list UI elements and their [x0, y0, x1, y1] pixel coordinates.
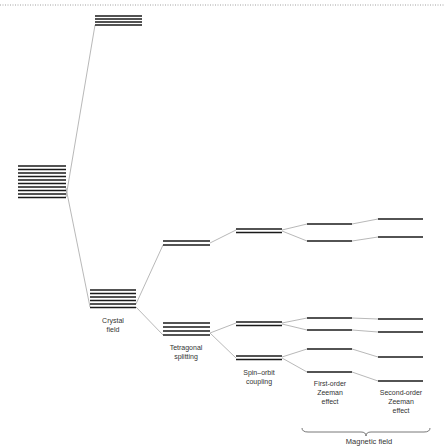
label-magnetic-field: Magnetic field [336, 437, 402, 446]
energy-level-diagram [0, 0, 445, 448]
magnetic-field-brace [302, 428, 430, 436]
level-group-second-order [378, 219, 423, 381]
level-group-tetragonal-upper [163, 241, 210, 245]
label-second-order-zeeman: Second-order Zeeman effect [370, 388, 432, 415]
connector-line [282, 231, 307, 241]
label-crystal-field: Crystal field [88, 316, 138, 334]
connector-line [282, 318, 307, 323]
energy-levels [18, 16, 423, 381]
connector-line [352, 349, 378, 357]
level-group-first-order [307, 224, 352, 372]
connector-line [210, 323, 236, 333]
connector-line [66, 188, 90, 307]
connector-line [210, 230, 236, 243]
connector-line [352, 318, 378, 319]
label-first-order-zeeman: First-order Zeeman effect [302, 379, 358, 406]
connector-line [66, 25, 95, 197]
level-group-spin-orbit-c [236, 356, 282, 360]
connector-line [136, 307, 163, 335]
level-group-spin-orbit-a [236, 229, 282, 233]
level-group-free-ion-upper [95, 16, 142, 25]
level-group-tetragonal-lower [163, 323, 210, 335]
level-group-crystal-field [90, 290, 136, 308]
label-tetragonal-splitting: Tetragonal splitting [158, 343, 214, 361]
connector-line [136, 245, 163, 304]
connector-line [352, 237, 378, 241]
level-group-spin-orbit-b [236, 322, 282, 326]
connector-line [282, 324, 307, 330]
connector-line [282, 349, 307, 357]
level-group-free-ion [18, 166, 66, 198]
connector-line [282, 224, 307, 230]
label-spin-orbit-coupling: Spin–orbit coupling [232, 368, 286, 386]
connector-line [352, 330, 378, 332]
connector-line [352, 219, 378, 224]
